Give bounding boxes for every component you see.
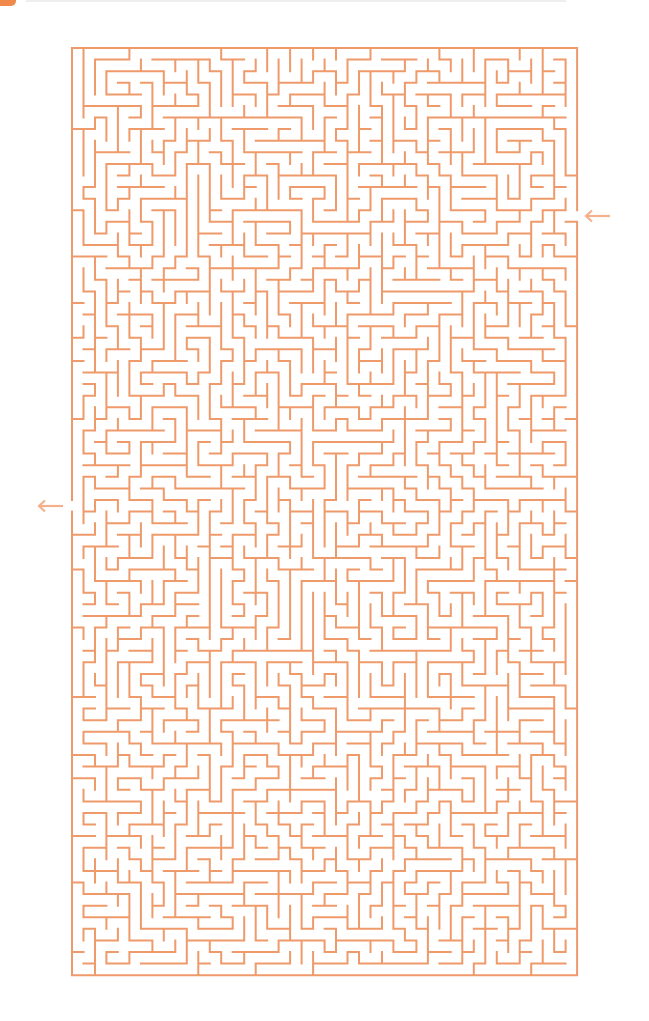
maze-walls bbox=[72, 48, 577, 975]
maze-board bbox=[0, 0, 649, 1021]
arrow-left-icon bbox=[36, 499, 66, 513]
arrow-left-icon bbox=[583, 209, 613, 223]
maze-wall-path bbox=[72, 48, 577, 975]
